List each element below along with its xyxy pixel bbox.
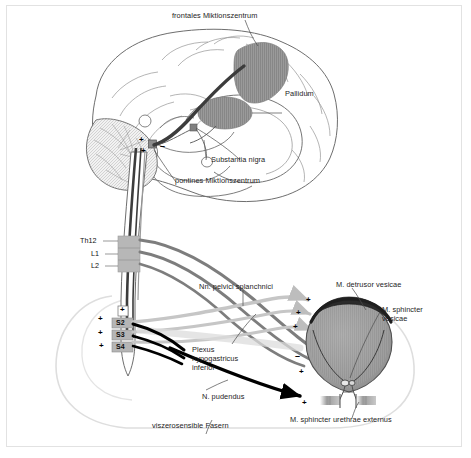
label-sphincter-vesicae: M. sphincter vesicae xyxy=(382,305,423,323)
label-hypogastric-plexus: Plexus hypogastricus inferior xyxy=(192,345,238,373)
label-detrusor-vesicae: M. detrusor vesicae xyxy=(336,280,401,289)
label-pallidum: Pallidum xyxy=(285,89,314,98)
segment-label-s4: S4 xyxy=(116,343,125,351)
segment-label-s2: S2 xyxy=(116,319,125,327)
label-pelvic-splanchnic-nerves: Nn. pelvici splanchnici xyxy=(199,282,273,291)
sign-s3-plus: + xyxy=(98,329,103,337)
external-urethral-sphincter xyxy=(320,394,376,408)
substantia-nigra-region xyxy=(190,124,197,131)
sign-s2-plus: + xyxy=(98,315,103,323)
anatomy-diagram xyxy=(0,0,471,458)
figure-root: frontales Miktionszentrum Pallidum Subst… xyxy=(0,0,471,458)
sign-detrusor-plus-3: + xyxy=(293,323,298,331)
sign-cord-plus-top: + xyxy=(120,306,125,314)
sign-sphincter-vesicae-plus: + xyxy=(299,368,304,376)
segment-leader-lines xyxy=(103,241,118,266)
segment-label-th12: Th12 xyxy=(80,237,96,245)
sign-brainstem-plus-lower: + xyxy=(141,147,146,155)
sign-s4-plus: + xyxy=(99,342,104,350)
label-viszerosensible-fasern: viszerosensible Fasern xyxy=(152,421,229,430)
label-sphincter-urethrae-externus: M. sphincter urethrae externus xyxy=(290,415,392,424)
sign-sphincter-vesicae-minus: – xyxy=(295,352,300,360)
label-frontal-micturition-center: frontales Miktionszentrum xyxy=(172,11,257,20)
sign-brainstem-plus-left: + xyxy=(139,136,144,144)
sign-brainstem-minus: – xyxy=(160,142,165,150)
sign-sphincter-urethrae-plus: + xyxy=(302,399,307,407)
segment-label-l2: L2 xyxy=(91,262,99,270)
label-substantia-nigra: Substantia nigra xyxy=(211,155,265,164)
segment-label-s3: S3 xyxy=(116,331,125,339)
pelvic-splanchnic-fibers xyxy=(133,297,312,348)
label-pontine-micturition-center: pontines Miktionszentrum xyxy=(175,176,260,185)
label-pudendal-nerve: N. pudendus xyxy=(202,392,244,401)
sign-detrusor-plus-2: + xyxy=(296,309,301,317)
segment-label-l1: L1 xyxy=(91,250,99,258)
sign-detrusor-plus-1: + xyxy=(306,296,311,304)
